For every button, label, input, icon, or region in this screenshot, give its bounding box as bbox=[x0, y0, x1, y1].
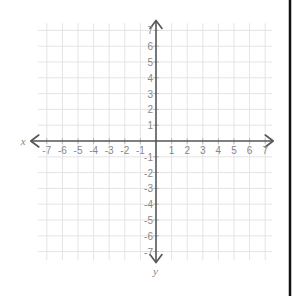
y-tick-label: -7 bbox=[144, 247, 153, 258]
x-tick-label: -7 bbox=[42, 145, 51, 156]
y-tick-label: 2 bbox=[147, 104, 153, 115]
y-axis-label: y bbox=[152, 265, 158, 277]
coordinate-plane: -7-6-5-4-3-2-11234567 -7-6-5-4-3-2-11234… bbox=[0, 0, 296, 296]
x-tick-label: -2 bbox=[120, 145, 129, 156]
x-tick-label: 4 bbox=[216, 145, 222, 156]
y-tick-label: -1 bbox=[144, 152, 153, 163]
x-tick-label: 5 bbox=[231, 145, 237, 156]
x-tick-label: -5 bbox=[74, 145, 83, 156]
y-tick-label: 7 bbox=[147, 25, 153, 36]
x-tick-label: -4 bbox=[89, 145, 98, 156]
x-tick-label: 2 bbox=[184, 145, 190, 156]
x-tick-label: -3 bbox=[105, 145, 114, 156]
y-tick-label: 4 bbox=[147, 73, 153, 84]
y-tick-label: -6 bbox=[144, 231, 153, 242]
x-tick-label: 1 bbox=[169, 145, 175, 156]
y-tick-label: -4 bbox=[144, 199, 153, 210]
y-tick-label: -2 bbox=[144, 168, 153, 179]
x-tick-label: -6 bbox=[58, 145, 67, 156]
y-tick-label: 3 bbox=[147, 89, 153, 100]
x-axis-label: x bbox=[20, 135, 26, 147]
y-tick-label: 6 bbox=[147, 41, 153, 52]
y-tick-label: -5 bbox=[144, 215, 153, 226]
x-tick-label: 3 bbox=[200, 145, 206, 156]
x-tick-label: 6 bbox=[247, 145, 253, 156]
x-tick-label: 7 bbox=[262, 145, 268, 156]
y-tick-label: -3 bbox=[144, 183, 153, 194]
y-tick-label: 5 bbox=[147, 57, 153, 68]
y-tick-label: 1 bbox=[147, 120, 153, 131]
